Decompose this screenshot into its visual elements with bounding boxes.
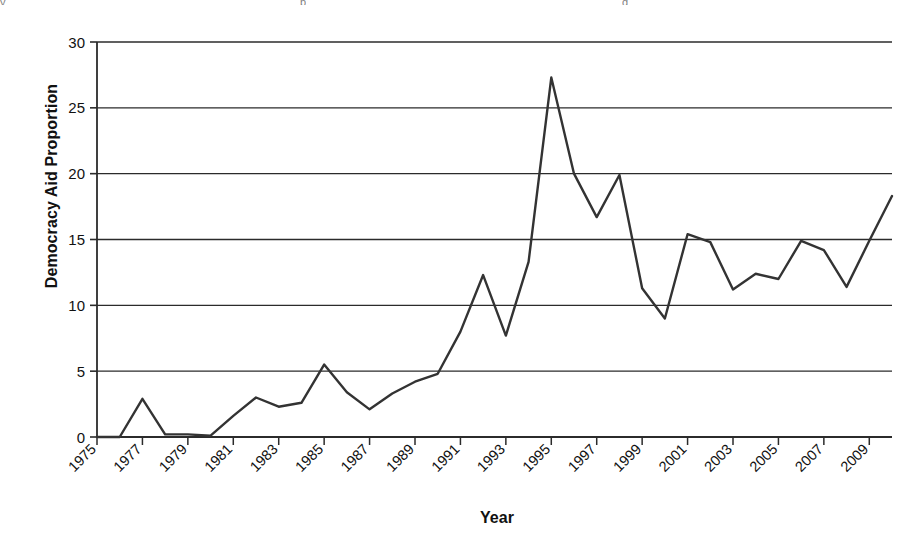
- x-tick-label: 1991: [428, 441, 462, 475]
- x-tick-label: 1987: [338, 441, 372, 475]
- x-axis-title: Year: [480, 509, 514, 527]
- y-tick-label: 30: [68, 34, 85, 51]
- x-tick-label: 2003: [701, 441, 735, 475]
- x-tick-marks: [97, 437, 869, 445]
- y-tick-marks: [90, 42, 97, 437]
- line-chart: 051015202530 197519771979198119831985198…: [0, 0, 914, 548]
- x-tick-label: 1985: [292, 441, 326, 475]
- x-tick-label: 1989: [383, 441, 417, 475]
- x-tick-label: 1999: [610, 441, 644, 475]
- y-tick-label: 5: [77, 363, 85, 380]
- x-tick-label: 1975: [65, 441, 99, 475]
- x-tick-label: 1979: [156, 441, 190, 475]
- y-tick-labels: 051015202530: [68, 34, 85, 446]
- y-axis-title-wrap: Democracy Aid Proportion: [40, 6, 64, 366]
- y-axis-title: Democracy Aid Proportion: [43, 84, 61, 289]
- x-tick-label: 2007: [792, 441, 826, 475]
- x-axis-title-wrap: Year: [0, 509, 914, 527]
- y-tick-label: 15: [68, 231, 85, 248]
- x-tick-labels: 1975197719791981198319851987198919911993…: [65, 441, 871, 475]
- x-tick-label: 1993: [474, 441, 508, 475]
- series-line-democracy-aid-proportion: [97, 78, 892, 437]
- figure-container: y p g 051015202530 197519771979198119831…: [0, 0, 914, 548]
- x-tick-label: 2005: [746, 441, 780, 475]
- y-tick-label: 25: [68, 99, 85, 116]
- x-tick-label: 1995: [519, 441, 553, 475]
- grid-lines: [97, 42, 892, 437]
- y-tick-label: 20: [68, 165, 85, 182]
- x-tick-label: 1997: [565, 441, 599, 475]
- x-tick-label: 2001: [656, 441, 690, 475]
- x-tick-label: 1983: [247, 441, 281, 475]
- x-tick-label: 1977: [110, 441, 144, 475]
- x-tick-label: 2009: [837, 441, 871, 475]
- y-tick-label: 10: [68, 297, 85, 314]
- y-tick-label: 0: [77, 429, 85, 446]
- x-tick-label: 1981: [201, 441, 235, 475]
- data-series-line: [97, 78, 892, 437]
